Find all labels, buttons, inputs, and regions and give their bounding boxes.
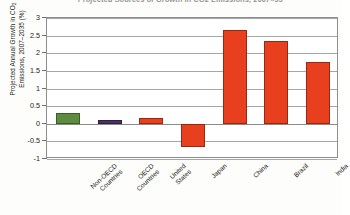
x-tick-label-oecd-countries: OECDCountries: [129, 162, 160, 192]
bar-india[interactable]: [306, 62, 330, 124]
x-tick-label-japan: Japan: [210, 162, 228, 180]
gridline--1: [47, 159, 337, 160]
y-tick-mark-3: [42, 17, 46, 18]
y-tick-mark-0.5: [42, 105, 46, 106]
y-tick-label-1: 1: [14, 83, 40, 92]
y-tick-mark-0: [42, 123, 46, 124]
x-tick-label-non-oecd-countries: Non-OECDCountries: [89, 162, 124, 196]
bar-united-states[interactable]: [139, 118, 163, 123]
y-tick-mark-2: [42, 52, 46, 53]
y-tick-mark--0.5: [42, 140, 46, 141]
y-tick-mark-1.5: [42, 70, 46, 71]
x-tick-label-china: China: [251, 162, 269, 179]
gridline-1.5: [47, 71, 337, 72]
bar-oecd-countries[interactable]: [98, 120, 122, 124]
chart-title: Projected Sources of Growth in CO2 Emiss…: [78, 0, 328, 4]
bar-japan[interactable]: [181, 124, 205, 147]
gridline-2: [47, 53, 337, 54]
y-tick-label-2: 2: [14, 48, 40, 57]
x-tick-label-brazil: Brazil: [293, 162, 310, 179]
y-tick-label-0.5: 0.5: [14, 101, 40, 110]
gridline-0.5: [47, 106, 337, 107]
y-axis-title-subscript: 2: [12, 3, 17, 6]
x-tick-label-united-states: UnitedStates: [168, 162, 192, 186]
plot-area: [46, 17, 338, 158]
bar-china[interactable]: [223, 30, 247, 123]
y-tick-label-0: 0: [14, 118, 40, 127]
bar-non-oecd-countries[interactable]: [56, 113, 80, 124]
y-tick-label--0.5: -0.5: [14, 136, 40, 145]
y-tick-mark-2.5: [42, 35, 46, 36]
gridline-3: [47, 18, 337, 19]
bar-brazil[interactable]: [264, 41, 288, 124]
y-tick-label-3: 3: [14, 13, 40, 22]
y-tick-mark-1: [42, 88, 46, 89]
gridline-2.5: [47, 36, 337, 37]
y-tick-mark--1: [42, 158, 46, 159]
y-tick-label--1: -1: [14, 154, 40, 163]
x-tick-label-india: India: [334, 162, 350, 177]
y-tick-label-2.5: 2.5: [14, 30, 40, 39]
y-tick-label-1.5: 1.5: [14, 65, 40, 74]
gridline-1: [47, 89, 337, 90]
